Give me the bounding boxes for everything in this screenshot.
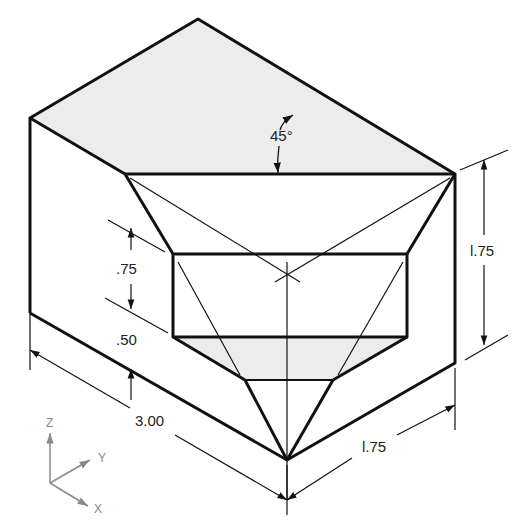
x-axis-label: X — [94, 502, 102, 516]
width-dimension — [287, 368, 455, 500]
y-axis-label: Y — [98, 451, 106, 465]
top-face — [30, 19, 455, 174]
angle-label: 45° — [270, 127, 293, 144]
z-axis-label: Z — [46, 416, 53, 430]
isometric-drawing: 45° l.75 .75 .50 3.00 l.75 Z Y X — [0, 0, 519, 522]
height-label: l.75 — [470, 242, 494, 259]
notch-depth-label: .75 — [116, 260, 137, 277]
notch-offset-label: .50 — [116, 331, 137, 348]
width-label: l.75 — [362, 438, 386, 455]
length-label: 3.00 — [135, 412, 164, 429]
axis-triad — [50, 433, 90, 506]
